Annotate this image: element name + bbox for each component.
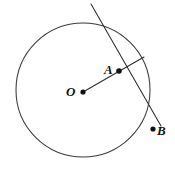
- geometry-figure: O A B: [0, 0, 175, 170]
- figure-background: [0, 0, 175, 170]
- point-b-dot: [150, 126, 155, 131]
- point-o-label: O: [66, 84, 76, 99]
- point-a-dot: [116, 68, 122, 74]
- point-o-dot: [80, 89, 85, 94]
- point-a-label: A: [103, 62, 113, 77]
- geometry-canvas: O A B: [0, 0, 175, 170]
- point-b-label: B: [156, 123, 166, 138]
